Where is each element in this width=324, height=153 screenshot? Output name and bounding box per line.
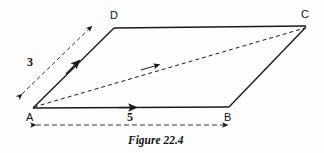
edge-DC — [114, 26, 306, 28]
vertex-label-d: D — [110, 10, 118, 21]
vertex-label-c: C — [301, 9, 309, 20]
arrowhead-AC — [141, 65, 157, 70]
parallelogram-diagram — [0, 0, 324, 153]
arrowhead-AD — [66, 63, 77, 74]
vertex-label-a: A — [26, 112, 33, 123]
vertex-label-b: B — [224, 112, 231, 123]
dimension-label-3: 3 — [27, 56, 33, 68]
dimension-label-5: 5 — [127, 111, 133, 123]
figure-caption: Figure 22.4 — [128, 134, 184, 146]
figure-container: A B C D 3 5 Figure 22.4 — [0, 0, 324, 153]
edge-AD — [33, 28, 114, 108]
edge-BC — [229, 27, 306, 107]
